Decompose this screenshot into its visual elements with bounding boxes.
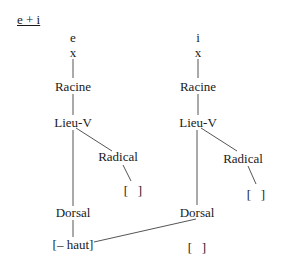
left-radical-to-value-line	[123, 165, 131, 181]
right-radical-to-value-line	[248, 166, 256, 184]
right-lieuv-to-radical-line	[201, 128, 237, 151]
left-lieuv-node: Lieu-V	[54, 116, 92, 130]
left-radical-node: Radical	[98, 150, 138, 164]
left-lieuv-to-radical-line	[76, 128, 112, 151]
left-segment-label: e	[70, 31, 76, 45]
right-lieuv-node: Lieu-V	[179, 116, 217, 130]
left-skeleton-x: x	[70, 46, 77, 60]
feature-geometry-diagram: e + i e x Racine Lieu-V Radical [ ] Dors…	[0, 0, 286, 268]
left-radical-value: [ ]	[124, 184, 142, 198]
left-dorsal-value: [– haut]	[53, 238, 94, 252]
left-racine-node: Racine	[55, 80, 91, 94]
right-skeleton-x: x	[195, 46, 202, 60]
right-dorsal-node: Dorsal	[180, 206, 215, 220]
right-radical-node: Radical	[223, 152, 263, 166]
left-dorsal-node: Dorsal	[56, 206, 91, 220]
right-radical-value: [ ]	[247, 188, 265, 202]
right-racine-node: Racine	[180, 80, 216, 94]
diagram-title: e + i	[17, 13, 40, 27]
shared-haut-link-line	[94, 219, 196, 242]
right-dorsal-value: [ ]	[188, 241, 206, 255]
tree-lines	[0, 0, 286, 268]
right-segment-label: i	[196, 31, 200, 45]
